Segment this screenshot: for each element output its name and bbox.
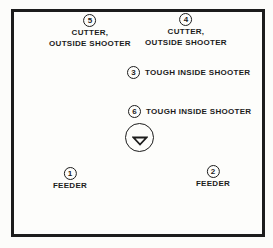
position-1-role-label: FEEDER (53, 181, 87, 191)
position-1-number-badge: 1 (64, 167, 77, 180)
position-5-number-badge: 5 (84, 14, 97, 27)
target-marker (125, 123, 154, 152)
position-3-number-badge: 3 (127, 66, 140, 79)
position-3-role-label: TOUGH INSIDE SHOOTER (145, 68, 250, 78)
position-2-group: 2 FEEDER (196, 165, 230, 189)
position-6-role-label: TOUGH INSIDE SHOOTER (146, 107, 251, 117)
position-2-number-badge: 2 (207, 165, 220, 178)
position-3-group: 3 TOUGH INSIDE SHOOTER (127, 66, 250, 79)
position-5-role-line1: CUTTER, (72, 28, 109, 38)
position-4-group: 4 CUTTER, OUTSIDE SHOOTER (145, 13, 227, 48)
position-6-number-badge: 6 (128, 105, 141, 118)
diagram-canvas: 5 CUTTER, OUTSIDE SHOOTER 4 CUTTER, OUTS… (0, 0, 273, 248)
position-4-number-badge: 4 (180, 13, 193, 26)
position-4-role-line2: OUTSIDE SHOOTER (145, 38, 227, 48)
position-5-role-line2: OUTSIDE SHOOTER (49, 39, 131, 49)
triangle-down-icon (132, 136, 148, 146)
position-1-group: 1 FEEDER (53, 167, 87, 191)
position-4-role-line1: CUTTER, (168, 27, 205, 37)
position-2-role-label: FEEDER (196, 179, 230, 189)
position-6-group: 6 TOUGH INSIDE SHOOTER (128, 105, 251, 118)
position-5-group: 5 CUTTER, OUTSIDE SHOOTER (49, 14, 131, 49)
